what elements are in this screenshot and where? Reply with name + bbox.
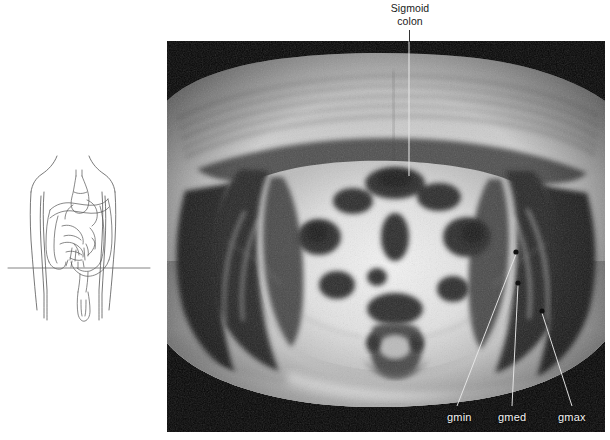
gmin-label: gmin (447, 411, 472, 423)
gmax-label: gmax (558, 411, 586, 423)
sigmoid-colon-label-line1: Sigmoid (352, 2, 468, 15)
gmax-marker-dot (539, 308, 544, 313)
sigmoid-colon-leader-line-margin (409, 30, 410, 42)
gmed-marker-dot (515, 280, 520, 285)
orientation-diagram-drawing (0, 148, 160, 333)
torso-outline (30, 156, 116, 320)
gmed-label: gmed (498, 411, 526, 423)
orientation-diagram (0, 148, 160, 333)
gmin-marker-dot (513, 249, 518, 254)
mri-image (167, 41, 605, 432)
mri-axial-pelvis-rendering (167, 41, 605, 432)
sigmoid-colon-label-line2: colon (352, 15, 468, 28)
sigmoid-colon-label: Sigmoid colon (352, 2, 468, 28)
